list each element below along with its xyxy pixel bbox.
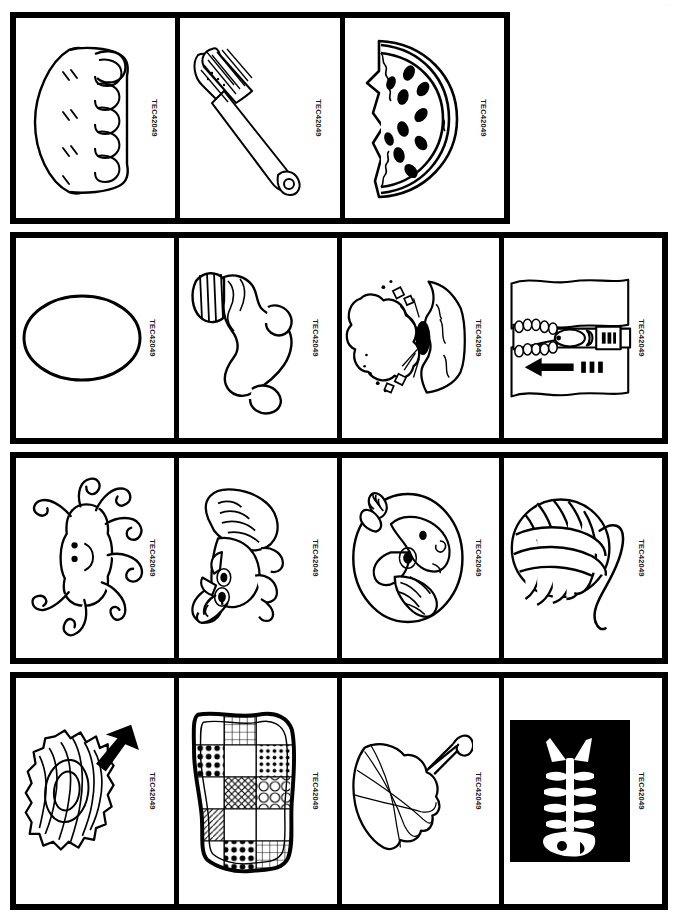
card-cell-zipper[interactable]: TEC42049 (504, 238, 662, 438)
card-cell-octopus[interactable]: TEC42049 (16, 458, 179, 658)
card-code-label: TEC42049 (311, 319, 320, 356)
card-code-label: TEC42049 (474, 772, 483, 809)
sock-icon (179, 238, 311, 438)
card-cell-sock[interactable]: TEC42049 (179, 238, 342, 438)
card-cell-xray-fish[interactable]: TEC42049 (504, 678, 662, 904)
card-code-label: TEC42049 (149, 319, 158, 356)
corner-artifact-mark: · · (664, 1, 670, 7)
card-row-4: TEC42049 (10, 672, 668, 910)
card-row-2: TEC42049 (10, 232, 668, 444)
card-code-label: TEC42049 (149, 772, 158, 809)
card-cell-watermelon[interactable]: TEC42049 (345, 18, 504, 218)
egg-icon (16, 238, 148, 438)
card-cell-umbrella[interactable]: TEC42049 (342, 678, 505, 904)
card-cell-unicorn[interactable]: TEC42049 (342, 458, 505, 658)
picture-card-sheet: · · (0, 0, 678, 922)
card-code-label: TEC42049 (637, 539, 646, 576)
unicorn-icon (342, 458, 474, 658)
card-cell-quilt[interactable]: TEC42049 (179, 678, 342, 904)
card-code-label: TEC42049 (637, 772, 646, 809)
card-code-label: TEC42049 (150, 99, 159, 136)
card-row-3: TEC42049 (10, 452, 668, 664)
yarn-icon (504, 458, 636, 658)
octopus-icon (16, 458, 148, 658)
nest-icon (16, 678, 148, 904)
zipper-icon (504, 238, 636, 438)
card-cell-egg[interactable]: TEC42049 (16, 238, 179, 438)
card-code-label: TEC42049 (314, 99, 323, 136)
card-cell-toothbrush[interactable]: TEC42049 (180, 18, 344, 218)
umbrella-icon (342, 678, 474, 904)
card-code-label: TEC42049 (637, 319, 646, 356)
raccoon-icon (179, 458, 311, 658)
watermelon-icon (345, 18, 478, 218)
card-cell-nest[interactable]: TEC42049 (16, 678, 179, 904)
card-code-label: TEC42049 (474, 539, 483, 576)
card-code-label: TEC42049 (311, 539, 320, 576)
quilt-icon (179, 678, 311, 904)
card-code-label: TEC42049 (149, 539, 158, 576)
xray-fish-icon (504, 678, 636, 904)
card-cell-pie[interactable]: TEC42049 (16, 18, 180, 218)
card-code-label: TEC42049 (474, 319, 483, 356)
card-cell-volcano[interactable]: TEC42049 (342, 238, 505, 438)
pie-icon (16, 18, 149, 218)
card-code-label: TEC42049 (479, 99, 488, 136)
card-cell-yarn[interactable]: TEC42049 (504, 458, 662, 658)
card-row-1: TEC42049 (10, 12, 510, 224)
card-code-label: TEC42049 (311, 772, 320, 809)
volcano-icon (342, 238, 474, 438)
toothbrush-icon (180, 18, 313, 218)
card-cell-raccoon[interactable]: TEC42049 (179, 458, 342, 658)
